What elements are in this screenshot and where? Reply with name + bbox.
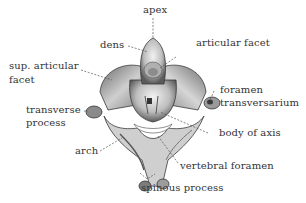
label-transverse-process-line1: transverse [26,104,81,116]
label-articular-facet: articular facet [196,37,270,49]
label-foramen-transversarium-line2: transversarium [220,97,299,109]
label-spinous-process: spinous process [141,182,223,194]
label-dens: dens [100,39,124,51]
body-of-axis [130,80,177,122]
label-sup-articular-facet-line2: facet [9,74,35,86]
dens [140,38,165,84]
label-foramen-transversarium-line1: foramen [220,84,263,96]
label-transverse-process-line2: process [26,117,66,129]
leader-arch [100,138,122,151]
label-body-of-axis: body of axis [219,127,281,139]
label-vertebral-foramen: vertebral foramen [180,160,274,172]
vertebral-arch [104,116,204,191]
axis-vertebra-figure: apex dens articular facet sup. articular… [0,0,306,203]
label-apex: apex [143,4,167,16]
label-sup-articular-facet-line1: sup. articular [9,60,79,72]
label-arch: arch [75,145,98,157]
